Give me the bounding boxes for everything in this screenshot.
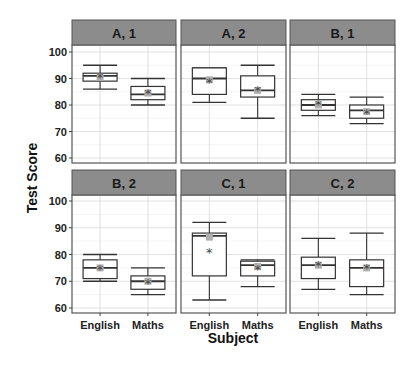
facet-strip-label: C, 2 — [331, 176, 355, 191]
y-tick-label: 80 — [55, 249, 67, 261]
y-tick-label: 80 — [55, 99, 67, 111]
panel-background — [181, 45, 286, 163]
x-tick-label: Maths — [132, 319, 164, 331]
mean-marker — [206, 234, 213, 241]
star-marker: * — [206, 245, 213, 260]
star-marker: * — [206, 75, 213, 90]
facet-panel-c-2: **C, 2EnglishMaths — [290, 170, 395, 331]
star-marker: * — [315, 97, 322, 112]
y-tick-label: 100 — [49, 195, 67, 207]
x-tick-label: English — [80, 319, 120, 331]
facet-strip-label: A, 1 — [112, 26, 136, 41]
star-marker: * — [97, 70, 104, 85]
facet-panel-a-2: **A, 2 — [181, 20, 286, 163]
facet-strip-label: B, 1 — [331, 26, 355, 41]
x-tick-label: English — [298, 319, 338, 331]
facet-panel-c-1: **C, 1EnglishMaths — [181, 170, 286, 331]
facet-strip-label: A, 2 — [222, 26, 246, 41]
panel-background — [72, 45, 176, 163]
panels: **A, 160708090100**A, 2**B, 1**B, 260708… — [49, 20, 395, 331]
y-tick-label: 70 — [55, 275, 67, 287]
x-axis-title: Subject — [208, 330, 259, 346]
y-tick-label: 60 — [55, 152, 67, 164]
star-marker: * — [363, 261, 370, 276]
facet-panel-b-1: **B, 1 — [290, 20, 395, 163]
facet-panel-b-2: **B, 260708090100EnglishMaths — [49, 170, 176, 331]
x-tick-label: Maths — [351, 319, 383, 331]
panel-background — [290, 195, 395, 313]
y-tick-label: 60 — [55, 302, 67, 314]
y-tick-label: 90 — [55, 73, 67, 85]
star-marker: * — [145, 86, 152, 101]
y-tick-label: 90 — [55, 222, 67, 234]
faceted-boxplot-chart: **A, 160708090100**A, 2**B, 1**B, 260708… — [0, 0, 417, 365]
y-tick-label: 70 — [55, 126, 67, 138]
facet-panel-a-1: **A, 160708090100 — [49, 20, 176, 164]
star-marker: * — [254, 262, 261, 277]
star-marker: * — [315, 258, 322, 273]
star-marker: * — [363, 106, 370, 121]
y-tick-label: 100 — [49, 46, 67, 58]
star-marker: * — [145, 276, 152, 291]
facet-strip-label: C, 1 — [222, 176, 246, 191]
y-axis-title: Test Score — [24, 143, 40, 214]
star-marker: * — [97, 262, 104, 277]
star-marker: * — [254, 83, 261, 98]
facet-strip-label: B, 2 — [112, 176, 136, 191]
